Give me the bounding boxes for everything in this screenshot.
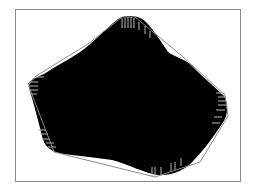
blob-convex-hull-figure [0, 0, 256, 192]
